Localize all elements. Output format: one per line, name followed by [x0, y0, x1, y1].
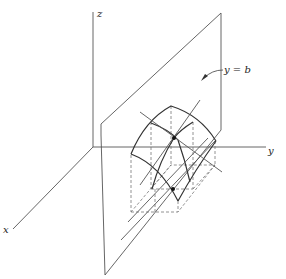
- surface-point: [172, 136, 176, 140]
- y-axis-label: y: [267, 145, 274, 156]
- plane-y-equals-b: y = b: [101, 13, 251, 275]
- tangent-lines: [121, 100, 222, 240]
- projection-box: [131, 106, 215, 212]
- x-axis: [13, 147, 93, 229]
- axes: z y x: [3, 8, 274, 235]
- z-axis-label: z: [96, 8, 103, 19]
- surface-plane-diagram: z y x y = b: [0, 0, 286, 279]
- base-point: [171, 187, 175, 191]
- plane-label: y = b: [223, 64, 251, 75]
- x-axis-label: x: [3, 224, 9, 235]
